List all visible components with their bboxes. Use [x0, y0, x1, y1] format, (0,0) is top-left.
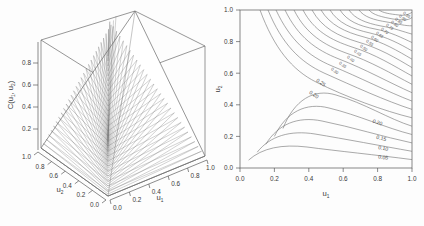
- surface-mesh: [41, 11, 205, 196]
- contour-y-axis-title: u2: [213, 85, 223, 92]
- u2-tick-5: 1.0: [22, 153, 31, 160]
- contour-x-tick-5: 1.0: [408, 175, 417, 182]
- contour-y-tick-4: 0.8: [224, 38, 233, 45]
- u1-tick-4: 0.8: [191, 172, 200, 179]
- contour-x-title-sub: 1: [327, 194, 330, 199]
- contour-x-tick-4: 0.8: [373, 175, 382, 182]
- surface-svg: 0.2 0.4 0.6 0.8 C(u1, u2) 1.0: [0, 0, 212, 226]
- u2-tick-0: 0.0: [90, 201, 99, 208]
- contour-x-axis-title: u1: [323, 189, 330, 199]
- contour-x-tick-0: 0.0: [236, 175, 245, 182]
- contour-x-axis: 0.0 0.2 0.4 0.6 0.8 1.0 u1: [236, 168, 417, 199]
- contour-y-tick-0: 0.0: [224, 164, 233, 171]
- contour-y-axis: 0.0 0.2 0.4 0.6 0.8 1.0 u2: [213, 6, 240, 171]
- contour-label-0.05: 0.05: [378, 153, 389, 161]
- u1-tick-0: 0.0: [113, 204, 122, 211]
- u2-title-sub: 2: [61, 190, 64, 195]
- contour-label-0.20: 0.20: [372, 118, 384, 127]
- contour-label-0.15: 0.15: [376, 134, 387, 142]
- contour-x-tick-3: 0.6: [339, 175, 348, 182]
- contour-y-tick-3: 0.6: [224, 70, 233, 77]
- z-tick-2: 0.6: [22, 81, 31, 88]
- surface-panel: 0.2 0.4 0.6 0.8 C(u1, u2) 1.0: [0, 0, 212, 226]
- copula-figure: 0.2 0.4 0.6 0.8 C(u1, u2) 1.0: [0, 0, 424, 226]
- u2-tick-2: 0.4: [63, 182, 72, 189]
- u2-tick-4: 0.8: [36, 163, 45, 170]
- contour-svg: 0.05 0.10 0.15 0.20 0.20 0.25 0.30 0.35 …: [212, 0, 424, 226]
- contour-x-tick-1: 0.2: [270, 175, 279, 182]
- svg-text:C(u1, u2): C(u1, u2): [6, 80, 16, 109]
- contour-x-tick-2: 0.4: [304, 175, 313, 182]
- contour-y-tick-5: 1.0: [224, 6, 233, 13]
- surface-z-axis: 0.2 0.4 0.6 0.8: [22, 42, 38, 150]
- u1-tick-3: 0.6: [171, 180, 180, 187]
- contour-label-0.30: 0.30: [330, 66, 340, 75]
- svg-text:u2: u2: [213, 85, 223, 92]
- contour-label-0.20b: 0.20: [308, 89, 320, 100]
- contour-label-0.25: 0.25: [315, 77, 327, 88]
- u2-tick-3: 0.6: [49, 172, 58, 179]
- contour-panel: 0.05 0.10 0.15 0.20 0.20 0.25 0.30 0.35 …: [212, 0, 424, 226]
- z-title-part1: C(u: [6, 97, 15, 109]
- u2-tick-1: 0.2: [76, 191, 85, 198]
- z-tick-0: 0.2: [22, 125, 31, 132]
- z-axis-title: C(u1, u2): [6, 80, 16, 109]
- contour-label-0.10: 0.10: [378, 144, 389, 152]
- z-title-part3: ): [6, 80, 15, 83]
- u1-tick-1: 0.2: [132, 196, 141, 203]
- contour-y-tick-2: 0.4: [224, 101, 233, 108]
- u1-axis-title: u1: [157, 193, 164, 203]
- z-tick-3: 0.8: [22, 59, 31, 66]
- u1-title-sub: 1: [161, 198, 164, 203]
- contour-y-title-sub: 2: [218, 85, 223, 88]
- z-tick-1: 0.4: [22, 103, 31, 110]
- z-title-part2: , u: [6, 86, 15, 94]
- contour-y-tick-1: 0.2: [224, 133, 233, 140]
